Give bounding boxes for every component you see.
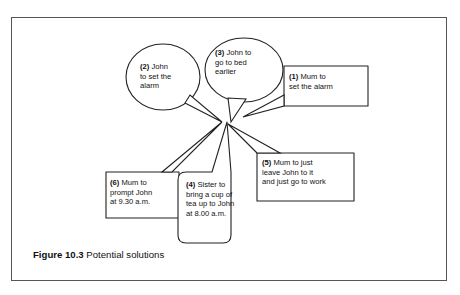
node-3-label: (3) John to go to bed earlier — [215, 48, 277, 77]
node-3-tail — [228, 98, 246, 122]
node-4-number: (4) — [186, 180, 195, 189]
node-1-label: (1) Mum to set the alarm — [289, 72, 361, 91]
node-2-tail — [185, 95, 222, 122]
node-5-number: (5) — [262, 158, 271, 167]
node-1-number: (1) — [289, 72, 298, 81]
node-6-number: (6) — [110, 178, 119, 187]
node-3-number: (3) — [215, 48, 224, 57]
node-5-tail — [228, 124, 280, 153]
node-6-tail — [162, 122, 222, 172]
figure-container: (1) Mum to set the alarm (2) John to set… — [0, 0, 460, 295]
node-5-label: (5) Mum to just leave John to it and jus… — [262, 158, 350, 187]
node-2-number: (2) — [140, 62, 149, 71]
figure-caption-text: Potential solutions — [86, 249, 164, 260]
node-6-label: (6) Mum to prompt John at 9.30 a.m. — [110, 178, 180, 207]
node-2-label: (2) John to set the alarm — [140, 62, 196, 91]
node-4-label: (4) Sister to bring a cup of tea up to J… — [186, 180, 260, 218]
figure-caption: Figure 10.3 Potential solutions — [33, 249, 164, 261]
node-5-body: Mum to just leave John to it and just go… — [262, 158, 326, 186]
figure-caption-label: Figure 10.3 — [33, 249, 84, 260]
